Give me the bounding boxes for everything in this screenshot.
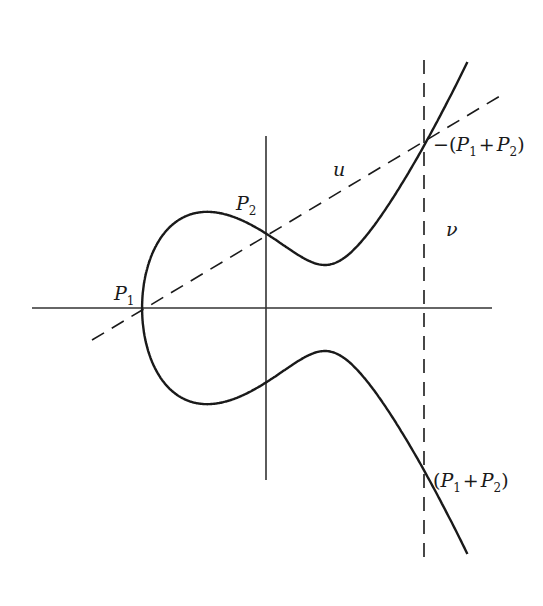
elliptic-curve-diagram: P1 P2 u ν −(P1+P2) (P1+P2) <box>0 0 543 606</box>
label-p1: P1 <box>113 282 134 308</box>
label-negative-sum: −(P1+P2) <box>433 133 525 159</box>
label-sum: (P1+P2) <box>433 469 509 495</box>
label-v: ν <box>446 218 458 240</box>
label-u: u <box>333 158 345 180</box>
label-p2: P2 <box>235 192 256 218</box>
